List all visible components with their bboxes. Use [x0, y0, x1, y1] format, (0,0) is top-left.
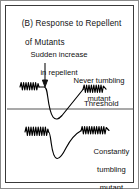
never-tumbling-right-tumble [83, 85, 106, 93]
constantly-tumbling-response-curve [49, 131, 81, 159]
trace-plot [1, 1, 139, 189]
stimulus-arrow-head [42, 80, 47, 87]
stimulus-arrow-group [42, 63, 47, 87]
never-tumbling-left-tumble [20, 83, 39, 91]
constantly-tumbling-trace [25, 127, 109, 159]
constantly-tumbling-left-tumble [25, 127, 49, 136]
never-tumbling-trace [20, 83, 106, 120]
figure-panel-b: (B) Response to Repellent of Mutants Sud… [0, 0, 139, 189]
never-tumbling-response-curve [39, 87, 83, 119]
constantly-tumbling-right-tumble [81, 127, 109, 135]
